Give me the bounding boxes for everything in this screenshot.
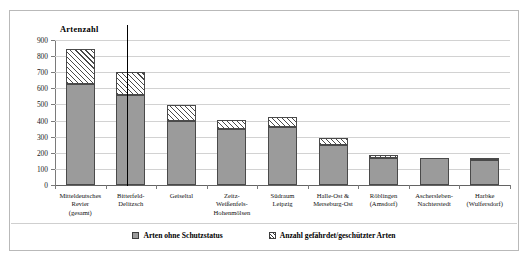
bar-segment-unprotected-8[interactable] (470, 160, 499, 185)
bar-1[interactable] (116, 40, 145, 185)
bar-segment-protected-6[interactable] (369, 155, 398, 157)
category-label-4: SüdraumLeipzig (257, 192, 308, 209)
chart-frame: Artenzahl 0100200300400500600700800900 M… (9, 10, 519, 251)
bar-0[interactable] (66, 40, 95, 185)
y-tick-label-400: 400 (37, 116, 48, 125)
category-label-6: Röblingen(Amsdorf) (358, 192, 409, 209)
x-tick-4 (257, 185, 258, 189)
bar-segment-protected-2[interactable] (167, 105, 196, 121)
y-axis (55, 40, 56, 185)
legend-hatched-swatch-icon (269, 232, 276, 239)
bar-6[interactable] (369, 40, 398, 185)
category-group-divider (127, 25, 128, 186)
bar-5[interactable] (319, 40, 348, 185)
bar-7[interactable] (420, 40, 449, 185)
x-tick-7 (409, 185, 410, 189)
x-tick-end (510, 185, 511, 189)
category-label-2: Geiseltal (156, 192, 207, 200)
bar-segment-unprotected-5[interactable] (319, 145, 348, 185)
y-tick-label-0: 0 (44, 181, 48, 190)
y-tick-label-200: 200 (37, 148, 48, 157)
plot-area: 0100200300400500600700800900 Mitteldeuts… (55, 40, 510, 185)
x-tick-8 (459, 185, 460, 189)
y-axis-title: Artenzahl (60, 25, 99, 34)
category-label-7: Aschersleben-Nachterstedt (409, 192, 460, 209)
x-tick-5 (308, 185, 309, 189)
bar-segment-protected-8[interactable] (470, 158, 499, 160)
legend-item-protected: Anzahl gefährdet/geschützter Arten (269, 231, 396, 240)
x-tick-3 (207, 185, 208, 189)
legend-solid-swatch-icon (132, 232, 139, 239)
bar-3[interactable] (217, 40, 246, 185)
x-tick-1 (106, 185, 107, 189)
x-tick-0 (55, 185, 56, 189)
gridline-0 (55, 185, 510, 186)
category-label-3: Zeitz-Weißenfels-Hohenmölsen (207, 192, 258, 217)
y-tick-label-700: 700 (37, 68, 48, 77)
bar-segment-unprotected-1[interactable] (116, 95, 145, 185)
y-tick-label-900: 900 (37, 36, 48, 45)
bar-segment-protected-0[interactable] (66, 49, 95, 84)
category-label-8: Harbke(Wulfersdorf) (459, 192, 510, 209)
bar-2[interactable] (167, 40, 196, 185)
legend-item-base: Arten ohne Schutzstatus (132, 231, 222, 240)
bar-segment-protected-5[interactable] (319, 138, 348, 144)
y-tick-label-300: 300 (37, 132, 48, 141)
category-label-5: Halle-Ost &Merseburg-Ost (308, 192, 359, 209)
x-tick-6 (358, 185, 359, 189)
bar-segment-unprotected-0[interactable] (66, 84, 95, 186)
bar-8[interactable] (470, 40, 499, 185)
x-tick-2 (156, 185, 157, 189)
legend-label-base: Arten ohne Schutzstatus (143, 231, 222, 240)
legend-separator-rule (11, 223, 517, 224)
bar-segment-protected-1[interactable] (116, 72, 145, 95)
bar-segment-unprotected-7[interactable] (420, 158, 449, 185)
bar-segment-unprotected-3[interactable] (217, 129, 246, 185)
bar-segment-unprotected-6[interactable] (369, 158, 398, 185)
y-tick-label-600: 600 (37, 84, 48, 93)
category-label-1: Bitterfeld-Delitzsch (106, 192, 157, 209)
category-label-0: MitteldeutschesRevier(gesamt) (55, 192, 106, 217)
bar-segment-unprotected-4[interactable] (268, 127, 297, 185)
bar-segment-unprotected-2[interactable] (167, 121, 196, 185)
bar-4[interactable] (268, 40, 297, 185)
legend-label-protected: Anzahl gefährdet/geschützter Arten (280, 231, 396, 240)
y-tick-label-500: 500 (37, 100, 48, 109)
bar-segment-protected-3[interactable] (217, 120, 246, 129)
chart-legend: Arten ohne Schutzstatus Anzahl gefährdet… (10, 231, 518, 240)
y-tick-label-800: 800 (37, 52, 48, 61)
bar-segment-protected-4[interactable] (268, 117, 297, 127)
y-tick-label-100: 100 (37, 164, 48, 173)
